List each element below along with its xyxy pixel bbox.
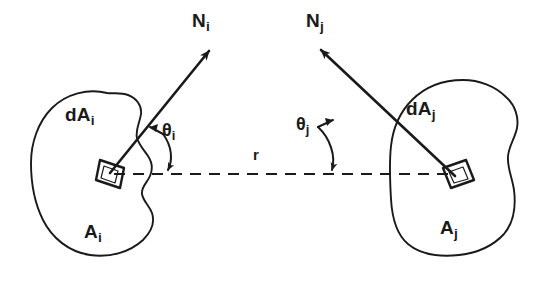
label-differential-area-i-base: dA [65, 104, 91, 125]
label-angle-theta-j: θj [296, 115, 309, 137]
label-normal-j: Nj [306, 11, 324, 34]
figure-canvas: Ni Nj dAi dAj θi θj Ai Aj r [0, 0, 554, 296]
label-normal-j-base: N [306, 10, 320, 31]
label-differential-area-j: dAj [406, 99, 436, 122]
label-differential-area-j-sub: j [432, 107, 436, 122]
label-distance-r: r [253, 147, 259, 162]
label-surface-i-sub: i [98, 230, 102, 245]
label-normal-j-sub: j [320, 19, 324, 34]
label-distance-r-base: r [253, 146, 259, 163]
label-surface-i: Ai [84, 222, 102, 245]
label-angle-theta-j-sub: j [306, 122, 310, 137]
label-differential-area-j-base: dA [406, 98, 432, 119]
label-surface-j-base: A [440, 217, 454, 238]
angle-arc-theta-j [318, 118, 333, 170]
label-normal-i: Ni [192, 11, 210, 34]
normal-vector-i [110, 51, 209, 173]
label-surface-j-sub: j [454, 226, 458, 241]
label-normal-i-base: N [192, 10, 206, 31]
label-angle-theta-i-base: θ [162, 120, 172, 140]
label-angle-theta-j-base: θ [296, 114, 306, 134]
label-differential-area-i-sub: i [91, 113, 95, 128]
view-factor-diagram [0, 0, 554, 296]
label-differential-area-i: dAi [65, 105, 95, 128]
label-surface-i-base: A [84, 221, 98, 242]
label-surface-j: Aj [440, 218, 458, 241]
label-normal-i-sub: i [206, 19, 210, 34]
label-angle-theta-i-sub: i [172, 128, 176, 143]
label-angle-theta-i: θi [162, 121, 175, 143]
